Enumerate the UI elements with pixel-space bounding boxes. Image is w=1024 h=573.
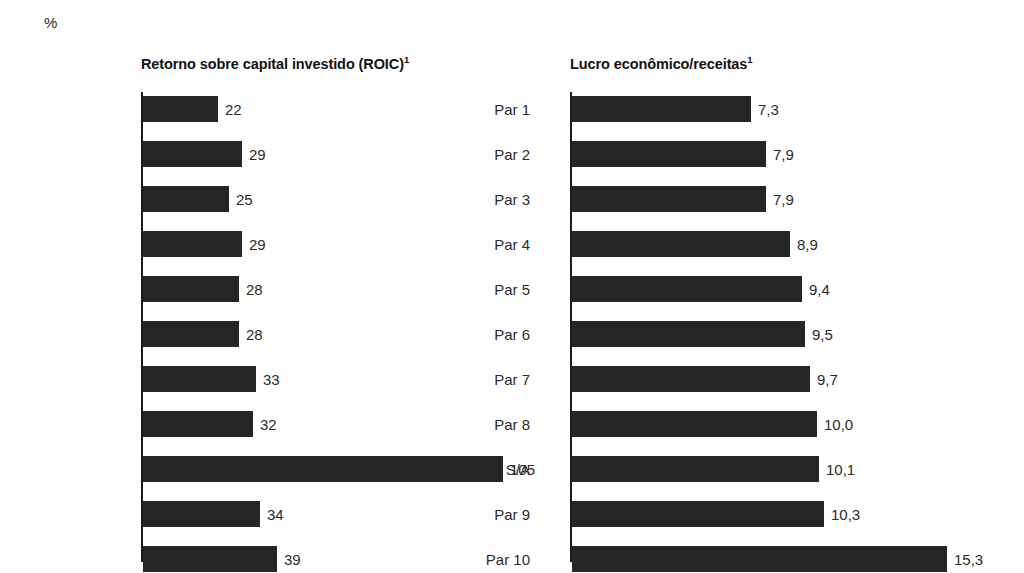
roic-bar-group: 39 bbox=[143, 546, 301, 572]
lucro-row: 8,9 bbox=[540, 223, 1024, 265]
lucro-bar bbox=[572, 186, 766, 212]
lucro-bar bbox=[572, 141, 766, 167]
lucro-row: 15,3 bbox=[540, 538, 1024, 573]
roic-bar-group: 22 bbox=[143, 96, 242, 122]
panel-lucro-title: Lucro econômico/receitas1 bbox=[570, 56, 753, 72]
lucro-row: 10,1 bbox=[540, 448, 1024, 490]
roic-bar bbox=[143, 276, 239, 302]
lucro-value-label: 7,9 bbox=[773, 146, 794, 163]
roic-value-label: 34 bbox=[267, 506, 284, 523]
lucro-value-label: 10,3 bbox=[831, 506, 860, 523]
roic-bar-group: 25 bbox=[143, 186, 253, 212]
roic-bar-group: 28 bbox=[143, 321, 263, 347]
lucro-bar-group: 10,3 bbox=[572, 501, 860, 527]
panel-lucro-plot: 7,37,97,98,99,49,59,710,010,110,315,3 bbox=[540, 92, 1024, 562]
roic-bar-group: 105 bbox=[143, 456, 535, 482]
lucro-bar bbox=[572, 231, 790, 257]
roic-bar-group: 33 bbox=[143, 366, 280, 392]
roic-bar bbox=[143, 96, 218, 122]
roic-bar bbox=[143, 411, 253, 437]
panel-lucro-economico: Lucro econômico/receitas1 7,37,97,98,99,… bbox=[540, 0, 1024, 573]
lucro-value-label: 15,3 bbox=[954, 551, 983, 568]
roic-bar bbox=[143, 501, 260, 527]
lucro-bar-group: 9,7 bbox=[572, 366, 838, 392]
lucro-bar-group: 7,9 bbox=[572, 186, 794, 212]
roic-category-label: Par 1 bbox=[415, 101, 540, 118]
lucro-value-label: 9,5 bbox=[812, 326, 833, 343]
lucro-row: 9,7 bbox=[540, 358, 1024, 400]
lucro-bar-group: 10,1 bbox=[572, 456, 855, 482]
lucro-row: 9,5 bbox=[540, 313, 1024, 355]
panel-lucro-title-text: Lucro econômico/receitas bbox=[570, 56, 747, 72]
roic-category-label: Par 3 bbox=[415, 191, 540, 208]
roic-bar bbox=[143, 141, 242, 167]
roic-row: Par 733 bbox=[0, 358, 540, 400]
lucro-value-label: 9,7 bbox=[817, 371, 838, 388]
roic-value-label: 28 bbox=[246, 326, 263, 343]
roic-bar-group: 29 bbox=[143, 141, 266, 167]
roic-value-label: 39 bbox=[284, 551, 301, 568]
lucro-bar-group: 10,0 bbox=[572, 411, 853, 437]
roic-value-label: 25 bbox=[236, 191, 253, 208]
roic-category-label: Par 6 bbox=[415, 326, 540, 343]
lucro-bar-group: 8,9 bbox=[572, 231, 818, 257]
roic-category-label: Par 5 bbox=[415, 281, 540, 298]
lucro-value-label: 8,9 bbox=[797, 236, 818, 253]
roic-category-label: Par 8 bbox=[415, 416, 540, 433]
roic-bar-group: 29 bbox=[143, 231, 266, 257]
lucro-bar-group: 9,4 bbox=[572, 276, 830, 302]
lucro-bar bbox=[572, 411, 817, 437]
lucro-bar bbox=[572, 96, 751, 122]
roic-category-label: Par 2 bbox=[415, 146, 540, 163]
lucro-value-label: 7,9 bbox=[773, 191, 794, 208]
roic-row: Par 832 bbox=[0, 403, 540, 445]
panel-lucro-title-footnote-marker: 1 bbox=[747, 54, 752, 65]
roic-bar bbox=[143, 186, 229, 212]
roic-value-label: 32 bbox=[260, 416, 277, 433]
lucro-value-label: 7,3 bbox=[758, 101, 779, 118]
roic-category-label: Par 7 bbox=[415, 371, 540, 388]
roic-category-label: Par 10 bbox=[415, 551, 540, 568]
roic-value-label: 22 bbox=[225, 101, 242, 118]
lucro-bar bbox=[572, 501, 824, 527]
lucro-row: 7,9 bbox=[540, 178, 1024, 220]
roic-row: Par 934 bbox=[0, 493, 540, 535]
lucro-bar-group: 15,3 bbox=[572, 546, 983, 572]
roic-bar bbox=[143, 456, 503, 482]
lucro-bar-group: 7,9 bbox=[572, 141, 794, 167]
lucro-value-label: 9,4 bbox=[809, 281, 830, 298]
roic-bar bbox=[143, 231, 242, 257]
lucro-row: 7,3 bbox=[540, 88, 1024, 130]
lucro-row: 10,0 bbox=[540, 403, 1024, 445]
roic-value-label: 28 bbox=[246, 281, 263, 298]
panel-roic-title: Retorno sobre capital investido (ROIC)1 bbox=[141, 56, 409, 72]
roic-value-label: 29 bbox=[249, 236, 266, 253]
panel-roic: Retorno sobre capital investido (ROIC)1 … bbox=[0, 0, 540, 573]
roic-row: Par 429 bbox=[0, 223, 540, 265]
panel-roic-title-footnote-marker: 1 bbox=[404, 54, 409, 65]
lucro-bar bbox=[572, 366, 810, 392]
lucro-row: 10,3 bbox=[540, 493, 1024, 535]
roic-bar-group: 34 bbox=[143, 501, 284, 527]
lucro-bar bbox=[572, 321, 805, 347]
lucro-bar bbox=[572, 546, 947, 572]
roic-bar-group: 28 bbox=[143, 276, 263, 302]
roic-row: Retorno S/A105 bbox=[0, 448, 540, 490]
roic-row: Par 122 bbox=[0, 88, 540, 130]
lucro-bar-group: 9,5 bbox=[572, 321, 833, 347]
lucro-bar bbox=[572, 276, 802, 302]
lucro-value-label: 10,1 bbox=[826, 461, 855, 478]
roic-bar-group: 32 bbox=[143, 411, 277, 437]
roic-value-label: 29 bbox=[249, 146, 266, 163]
roic-row: Par 628 bbox=[0, 313, 540, 355]
lucro-bar-group: 7,3 bbox=[572, 96, 779, 122]
roic-bar bbox=[143, 546, 277, 572]
roic-row: Par 528 bbox=[0, 268, 540, 310]
panel-roic-title-text: Retorno sobre capital investido (ROIC) bbox=[141, 56, 404, 72]
lucro-value-label: 10,0 bbox=[824, 416, 853, 433]
roic-category-label: Par 4 bbox=[415, 236, 540, 253]
roic-category-label: Par 9 bbox=[415, 506, 540, 523]
roic-row: Par 325 bbox=[0, 178, 540, 220]
roic-row: Par 1039 bbox=[0, 538, 540, 573]
roic-value-label: 105 bbox=[510, 461, 535, 478]
